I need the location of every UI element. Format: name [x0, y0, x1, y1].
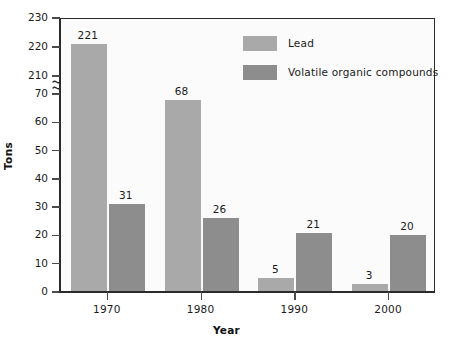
- bar-lead-1990: [258, 278, 294, 291]
- y-axis-title: Tons: [2, 142, 14, 170]
- bar-value-label-lead-1970: 221: [63, 29, 113, 41]
- y-axis-break-icon: [51, 76, 65, 94]
- x-tick-2000: [388, 292, 389, 300]
- y-tick-30: [52, 206, 60, 207]
- x-tick-1980: [201, 292, 202, 300]
- bar-value-label-lead-2000: 3: [344, 269, 394, 281]
- bar-lead-2000: [352, 284, 388, 291]
- y-tick-50: [52, 150, 60, 151]
- bar-voc-1970: [109, 204, 145, 291]
- bar-lead-1980: [165, 100, 201, 291]
- legend: Lead Volatile organic compounds: [243, 35, 438, 93]
- y-tick-220: [52, 46, 60, 47]
- y-tick-40: [52, 178, 60, 179]
- y-tick-label-40: 40: [2, 172, 48, 184]
- bar-value-label-voc-1990: 21: [288, 218, 338, 230]
- x-tick-1970: [107, 292, 108, 300]
- bar-value-label-voc-1970: 31: [101, 189, 151, 201]
- x-tick-1990: [294, 292, 295, 300]
- y-tick-label-10: 10: [2, 257, 48, 269]
- x-axis-title: Year: [0, 324, 453, 336]
- y-tick-20: [52, 235, 60, 236]
- legend-item-voc: Volatile organic compounds: [243, 64, 438, 80]
- bar-chart: 221316826521320 010203040506070210220230…: [0, 0, 453, 347]
- legend-swatch-voc: [243, 65, 277, 80]
- y-tick-60: [52, 122, 60, 123]
- bar-value-label-voc-2000: 20: [382, 220, 432, 232]
- x-tick-label-2000: 2000: [358, 303, 418, 315]
- y-tick-label-70: 70: [2, 87, 48, 99]
- y-tick-label-220: 220: [2, 40, 48, 52]
- x-tick-label-1970: 1970: [77, 303, 137, 315]
- x-axis-line: [59, 291, 435, 293]
- bar-value-label-lead-1990: 5: [250, 263, 300, 275]
- bar-voc-2000: [390, 235, 426, 291]
- y-tick-label-20: 20: [2, 228, 48, 240]
- x-tick-label-1990: 1990: [264, 303, 324, 315]
- y-tick-label-230: 230: [2, 11, 48, 23]
- bar-voc-1980: [203, 218, 239, 291]
- y-tick-label-0: 0: [2, 285, 48, 297]
- legend-label-lead: Lead: [288, 37, 314, 49]
- bar-value-label-lead-1980: 68: [157, 85, 207, 97]
- y-tick-label-60: 60: [2, 115, 48, 127]
- break-squiggle-icon: [51, 76, 65, 94]
- y-tick-label-30: 30: [2, 200, 48, 212]
- legend-swatch-lead: [243, 36, 277, 51]
- y-axis-line: [59, 18, 61, 293]
- legend-label-voc: Volatile organic compounds: [288, 66, 438, 78]
- bar-value-label-voc-1980: 26: [195, 203, 245, 215]
- legend-item-lead: Lead: [243, 35, 438, 51]
- bar-lead-1970: [71, 44, 107, 291]
- y-tick-10: [52, 263, 60, 264]
- x-tick-label-1980: 1980: [171, 303, 231, 315]
- y-tick-230: [52, 17, 60, 18]
- y-tick-label-210: 210: [2, 69, 48, 81]
- bar-voc-1990: [296, 233, 332, 291]
